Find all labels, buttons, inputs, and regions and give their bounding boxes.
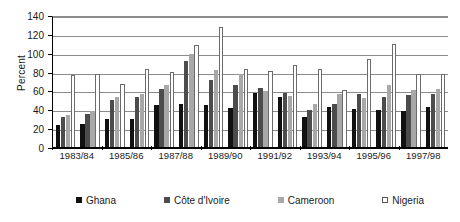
bar-c-te-d-ivoire-1987-88 bbox=[159, 89, 163, 148]
y-tick-100: 100 bbox=[0, 48, 44, 59]
bar-cluster bbox=[53, 17, 78, 148]
bar-ghana-1990-91 bbox=[228, 108, 232, 148]
bar-cluster bbox=[399, 17, 424, 148]
bar-c-te-d-ivoire-1997-98 bbox=[406, 95, 410, 148]
legend-item-ghana[interactable]: Ghana bbox=[76, 195, 116, 206]
bar-cluster bbox=[102, 17, 127, 148]
bar-cameroon-1992-93 bbox=[288, 96, 292, 148]
bar-cameroon-1998-99 bbox=[436, 89, 440, 148]
x-tick-1987-88: 1987/88 bbox=[151, 150, 201, 168]
bar-nigeria-1984-85 bbox=[95, 74, 99, 148]
y-tick-120: 120 bbox=[0, 29, 44, 40]
x-tick-mark bbox=[52, 146, 53, 150]
bar-ghana-1993-94 bbox=[302, 117, 306, 148]
bar-nigeria-1987-88 bbox=[170, 72, 174, 148]
bar-cluster bbox=[176, 17, 201, 148]
bar-ghana-1989-90 bbox=[204, 105, 208, 148]
bar-cameroon-1988-89 bbox=[189, 54, 193, 148]
bar-c-te-d-ivoire-1984-85 bbox=[85, 114, 89, 148]
bar-nigeria-1993-94 bbox=[318, 69, 322, 148]
bar-ghana-1985-86 bbox=[105, 119, 109, 148]
bar-cameroon-1991-92 bbox=[263, 91, 267, 148]
bar-cameroon-1994-95 bbox=[337, 94, 341, 148]
bar-c-te-d-ivoire-1998-99 bbox=[431, 94, 435, 148]
bar-c-te-d-ivoire-1989-90 bbox=[209, 80, 213, 148]
bar-c-te-d-ivoire-1985-86 bbox=[110, 100, 114, 148]
bar-cluster bbox=[275, 17, 300, 148]
bar-ghana-1987-88 bbox=[154, 105, 158, 148]
legend-swatch-icon bbox=[164, 197, 170, 203]
bar-nigeria-1990-91 bbox=[244, 69, 248, 148]
legend-label: Cameroon bbox=[288, 195, 335, 206]
bar-cameroon-1993-94 bbox=[313, 104, 317, 148]
bar-cameroon-1997-98 bbox=[411, 90, 415, 148]
y-tick-20: 20 bbox=[0, 124, 44, 135]
bar-nigeria-1988-89 bbox=[194, 45, 198, 148]
bar-nigeria-1985-86 bbox=[120, 84, 124, 148]
bar-ghana-1996-97 bbox=[376, 110, 380, 148]
bar-cluster bbox=[374, 17, 399, 148]
bar-c-te-d-ivoire-1991-92 bbox=[258, 88, 262, 148]
x-tick-1993-94: 1993/94 bbox=[300, 150, 350, 168]
bar-cluster bbox=[251, 17, 276, 148]
x-tick-1983-84: 1983/84 bbox=[52, 150, 102, 168]
bar-cameroon-1985-86 bbox=[115, 97, 119, 148]
bar-cameroon-1995-96 bbox=[362, 98, 366, 148]
x-tick-mark bbox=[151, 146, 152, 150]
bar-ghana-1983-84 bbox=[56, 125, 60, 148]
bar-ghana-1994-95 bbox=[327, 107, 331, 148]
bar-ghana-1988-89 bbox=[179, 104, 183, 148]
bar-ghana-1995-96 bbox=[352, 109, 356, 148]
x-tick-mark bbox=[201, 146, 202, 150]
x-tick-1989-90: 1989/90 bbox=[201, 150, 251, 168]
bar-nigeria-1991-92 bbox=[268, 71, 272, 148]
bar-chart-figure: Percent 020406080100120140 1983/841985/8… bbox=[0, 0, 460, 222]
bar-cameroon-1996-97 bbox=[387, 85, 391, 148]
y-tick-60: 60 bbox=[0, 86, 44, 97]
y-tick-140: 140 bbox=[0, 11, 44, 22]
bar-groups bbox=[53, 17, 448, 148]
bar-nigeria-1996-97 bbox=[392, 44, 396, 148]
bar-cameroon-1983-84 bbox=[66, 115, 70, 148]
bar-c-te-d-ivoire-1988-89 bbox=[184, 61, 188, 148]
bar-ghana-1992-93 bbox=[278, 97, 282, 148]
bar-cluster bbox=[423, 17, 448, 148]
bar-cluster bbox=[127, 17, 152, 148]
bar-nigeria-1986-87 bbox=[145, 69, 149, 148]
bar-nigeria-1997-98 bbox=[416, 74, 420, 148]
legend-item-cameroon[interactable]: Cameroon bbox=[278, 195, 335, 206]
bar-nigeria-1995-96 bbox=[367, 59, 371, 148]
bar-c-te-d-ivoire-1992-93 bbox=[283, 93, 287, 148]
bar-cameroon-1987-88 bbox=[164, 85, 168, 148]
y-tick-40: 40 bbox=[0, 105, 44, 116]
y-tick-0: 0 bbox=[0, 143, 44, 154]
x-tick-mark bbox=[399, 146, 400, 150]
bar-cluster bbox=[152, 17, 177, 148]
legend-item-c-te-d-ivoire[interactable]: Côte d'Ivoire bbox=[164, 195, 230, 206]
bar-ghana-1998-99 bbox=[426, 107, 430, 148]
bar-c-te-d-ivoire-1986-87 bbox=[135, 97, 139, 148]
x-tick-mark bbox=[102, 146, 103, 150]
bar-ghana-1984-85 bbox=[80, 124, 84, 149]
bar-cluster bbox=[349, 17, 374, 148]
legend-swatch-icon bbox=[76, 197, 82, 203]
bar-c-te-d-ivoire-1990-91 bbox=[233, 85, 237, 148]
legend-label: Nigeria bbox=[392, 195, 424, 206]
legend-swatch-icon bbox=[278, 197, 284, 203]
x-axis-tick-labels: 1983/841985/861987/881989/901991/921993/… bbox=[52, 150, 448, 168]
bar-cameroon-1990-91 bbox=[239, 74, 243, 148]
bar-ghana-1991-92 bbox=[253, 93, 257, 148]
bar-c-te-d-ivoire-1994-95 bbox=[332, 104, 336, 148]
bar-nigeria-1983-84 bbox=[71, 75, 75, 148]
bar-c-te-d-ivoire-1983-84 bbox=[61, 117, 65, 148]
bar-cluster bbox=[300, 17, 325, 148]
legend-item-nigeria[interactable]: Nigeria bbox=[382, 195, 424, 206]
x-tick-1997-98: 1997/98 bbox=[399, 150, 449, 168]
x-tick-mark bbox=[250, 146, 251, 150]
bar-cameroon-1986-87 bbox=[140, 94, 144, 148]
plot-area bbox=[52, 16, 448, 148]
chart-legend: GhanaCôte d'IvoireCameroonNigeria bbox=[52, 192, 448, 208]
bar-c-te-d-ivoire-1993-94 bbox=[307, 110, 311, 148]
x-tick-1995-96: 1995/96 bbox=[349, 150, 399, 168]
bar-c-te-d-ivoire-1996-97 bbox=[382, 97, 386, 148]
